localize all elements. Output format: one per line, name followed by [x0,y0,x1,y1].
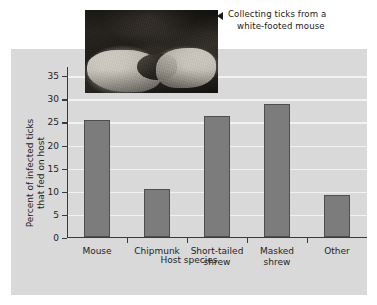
y-tick-label: 0 [53,233,59,243]
y-axis-title-second-line: that fed on host [36,98,48,248]
y-axis-title-line-2: that fed on host [36,98,47,248]
y-tick [62,99,67,100]
y-tick-label: 20 [48,141,59,151]
bar [84,120,110,237]
inset-photo [85,10,218,93]
gridline [68,99,367,100]
y-tick [62,146,67,147]
x-axis-title: Host species [11,255,367,265]
y-tick [62,192,67,193]
bar [264,104,290,237]
y-axis-line [67,67,68,238]
y-tick-label: 30 [48,94,59,104]
bar [204,116,230,236]
y-tick-label: 25 [48,117,59,127]
x-axis-line [67,237,367,238]
caption-line-1: Collecting ticks from a [228,9,374,21]
photo-vignette [85,10,218,93]
bar [144,189,170,237]
x-tick [187,238,188,243]
y-tick-label: 35 [48,71,59,81]
y-tick-label: 15 [48,164,59,174]
y-axis-title-line-1: Percent of infected ticks [25,98,36,248]
y-tick-label: 5 [53,210,59,220]
bar [324,195,350,237]
y-tick [62,76,67,77]
y-tick-label: 10 [48,187,59,197]
y-tick [62,215,67,216]
y-tick [62,238,67,239]
y-tick [62,122,67,123]
y-tick [62,169,67,170]
figure-root: Collecting ticks from a white-footed mou… [0,0,377,305]
figure-caption: Collecting ticks from a white-footed mou… [228,9,374,32]
caption-line-2: white-footed mouse [237,21,374,33]
x-tick [307,238,308,243]
x-tick [247,238,248,243]
x-tick [127,238,128,243]
